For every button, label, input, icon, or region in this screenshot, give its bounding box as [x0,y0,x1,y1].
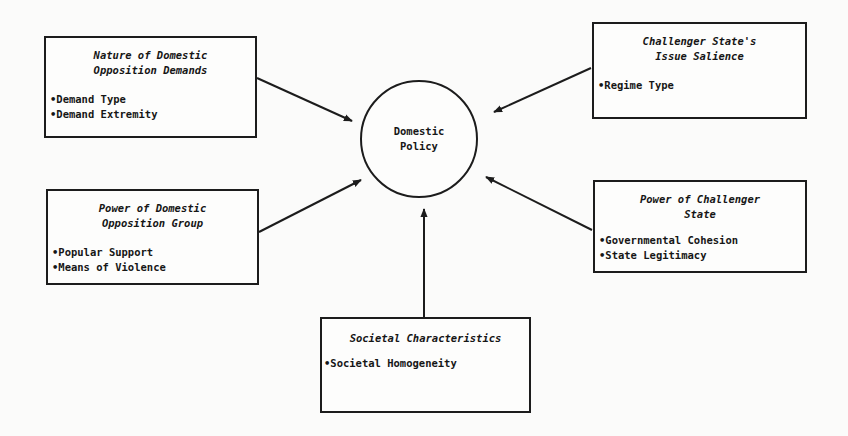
factor-item: Demand Type [50,92,255,107]
box-title: Societal Characteristics [322,331,529,346]
factor-item: State Legitimacy [599,248,805,263]
domestic-policy-node: Domestic Policy [360,80,478,198]
challenger-state-issue-salience-box: Challenger State's Issue Salience Regime… [592,22,807,119]
box-title: Challenger State's Issue Salience [594,34,805,64]
power-of-domestic-opposition-group-box: Power of Domestic Opposition Group Popul… [46,189,259,285]
domestic-policy-label: Domestic Policy [394,124,445,154]
nature-of-domestic-opposition-demands-box: Nature of Domestic Opposition Demands De… [44,36,257,138]
power-of-challenger-state-box: Power of Challenger State Governmental C… [593,180,807,273]
factor-list: Regime Type [598,78,805,93]
arrow-power-challenger [486,177,592,230]
box-title: Power of Challenger State [595,192,805,222]
arrow-issue-salience [494,68,591,112]
factor-list: Governmental Cohesion State Legitimacy [599,233,805,263]
factor-item: Regime Type [598,78,805,93]
arrow-power-opposition [259,180,361,232]
societal-characteristics-box: Societal Characteristics Societal Homoge… [320,317,531,413]
arrow-nature-demands [257,78,352,121]
box-title: Nature of Domestic Opposition Demands [46,48,255,78]
factor-item: Governmental Cohesion [599,233,805,248]
factor-item: Demand Extremity [50,107,255,122]
factor-item: Popular Support [52,245,257,260]
factor-list: Demand Type Demand Extremity [50,92,255,122]
factor-list: Popular Support Means of Violence [52,245,257,275]
box-title: Power of Domestic Opposition Group [48,201,257,231]
factor-item: Societal Homogeneity [324,356,529,371]
factor-list: Societal Homogeneity [324,356,529,371]
factor-item: Means of Violence [52,260,257,275]
